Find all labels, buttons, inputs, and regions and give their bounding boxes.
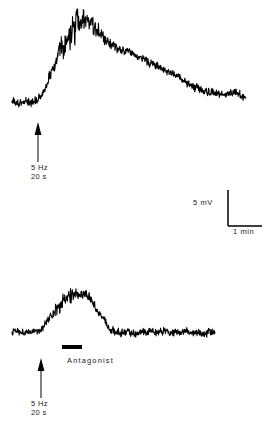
stimulus-label-bottom: 5 Hz20 s	[31, 400, 48, 418]
stimulus-duration-top: 20 s	[31, 172, 47, 181]
stimulus-frequency-top: 5 Hz	[31, 163, 48, 172]
stimulus-frequency-bottom: 5 Hz	[31, 399, 48, 408]
stimulus-duration-bottom: 20 s	[31, 408, 47, 417]
antagonist-label: Antagonist	[67, 357, 114, 366]
stimulus-label-top: 5 Hz20 s	[31, 164, 48, 182]
figure-canvas: 5 Hz20 s 5 Hz20 s 5 mV 1 min Antagonist	[0, 0, 270, 436]
traces-svg	[0, 0, 270, 436]
scale-bar-horizontal-label: 1 min	[233, 228, 254, 237]
scale-bar-vertical-label: 5 mV	[193, 199, 213, 208]
antagonist-application-bar	[62, 345, 82, 349]
